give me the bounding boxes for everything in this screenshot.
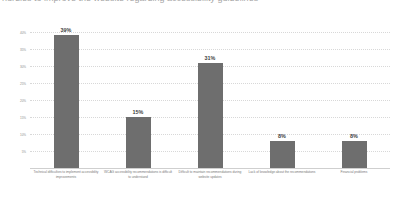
x-axis-category-label: Financial problems [318,170,390,175]
bar[interactable]: 8% [270,141,295,168]
chart-title-clipped: hurdles to improve the website regarding… [0,0,396,7]
x-axis-category-label: Lack of knowledge about the recommendati… [246,170,318,175]
bar-slot: 8% [318,32,390,168]
chart-title-text: hurdles to improve the website regarding… [2,0,258,3]
bar-chart: 5%10%15%20%25%30%35%40%39%15%31%8%8% Tec… [0,10,396,210]
bar[interactable]: 15% [126,117,151,168]
axis-baseline [30,168,390,169]
bar-value-label: 31% [205,55,216,61]
bar-value-label: 39% [61,27,72,33]
bar[interactable]: 8% [342,141,367,168]
y-axis-tick-label: 10% [20,133,26,137]
x-axis-category-label: Technical difficulties to implement acce… [30,170,102,180]
plot-area: 5%10%15%20%25%30%35%40%39%15%31%8%8% [30,32,390,168]
y-axis-tick-label: 25% [20,82,26,86]
y-axis-tick-label: 35% [20,48,26,52]
x-axis-labels: Technical difficulties to implement acce… [30,170,390,180]
y-axis-tick-label: 30% [20,65,26,69]
bar-series: 39%15%31%8%8% [30,32,390,168]
y-axis-tick-label: 20% [20,99,26,103]
y-axis-tick-label: 5% [22,150,26,154]
bar-slot: 31% [174,32,246,168]
bar-slot: 8% [246,32,318,168]
y-axis-tick-label: 40% [20,31,26,35]
bar-value-label: 8% [350,133,358,139]
x-axis-category-label: WCAG accessibility recommendations is di… [102,170,174,180]
bar-slot: 39% [30,32,102,168]
bar-value-label: 8% [278,133,286,139]
x-axis-category-label: Difficult to maintain recommendations du… [174,170,246,180]
y-axis-tick-label: 15% [20,116,26,120]
bar-value-label: 15% [133,109,144,115]
bar[interactable]: 39% [54,35,79,168]
bar[interactable]: 31% [198,63,223,168]
bar-slot: 15% [102,32,174,168]
